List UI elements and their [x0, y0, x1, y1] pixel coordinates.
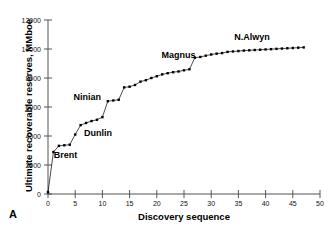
data-point-marker	[210, 53, 212, 55]
data-point-marker	[150, 77, 152, 79]
data-series	[47, 46, 305, 193]
data-point-marker	[166, 72, 168, 74]
annotation-label: Magnus	[162, 50, 196, 60]
data-point-marker	[118, 99, 120, 101]
data-point-marker	[292, 47, 294, 49]
data-point-marker	[69, 144, 71, 146]
x-tick-label: 25	[180, 200, 188, 207]
data-point-marker	[188, 68, 190, 70]
x-axis-title: Discovery sequence	[48, 211, 320, 222]
data-point-marker	[128, 86, 130, 88]
data-point-marker	[96, 119, 98, 121]
x-tick-label: 20	[153, 200, 161, 207]
data-point-marker	[90, 120, 92, 122]
tick-labels-group: 0200040006000800010000120000510152025303…	[22, 17, 324, 208]
data-point-marker	[232, 50, 234, 52]
data-point-marker	[221, 52, 223, 54]
data-point-marker	[145, 79, 147, 81]
x-tick-label: 40	[262, 200, 270, 207]
data-point-marker	[139, 80, 141, 82]
x-tick-label: 15	[126, 200, 134, 207]
data-point-marker	[199, 56, 201, 58]
data-point-marker	[107, 100, 109, 102]
annotation-label: Brent	[54, 150, 78, 160]
panel-label: A	[9, 208, 17, 220]
data-point-marker	[58, 145, 60, 147]
data-point-marker	[286, 47, 288, 49]
data-point-marker	[183, 69, 185, 71]
data-point-marker	[123, 86, 125, 88]
chart-plot-area: 0200040006000800010000120000510152025303…	[0, 0, 331, 235]
data-point-marker	[270, 48, 272, 50]
x-tick-label: 35	[235, 200, 243, 207]
data-point-marker	[85, 122, 87, 124]
data-point-marker	[177, 70, 179, 72]
data-point-marker	[205, 54, 207, 56]
data-point-marker	[302, 46, 304, 48]
data-point-marker	[237, 50, 239, 52]
data-point-marker	[275, 48, 277, 50]
annotation-label: Dunlin	[84, 128, 112, 138]
data-point-marker	[156, 75, 158, 77]
y-axis-title: Ultimate recoverable reserves, MMboe	[23, 6, 34, 206]
data-point-marker	[215, 52, 217, 54]
data-point-marker	[101, 116, 103, 118]
data-point-marker	[134, 84, 136, 86]
series-line	[48, 47, 304, 192]
x-tick-label: 0	[46, 200, 50, 207]
data-point-marker	[254, 49, 256, 51]
data-point-marker	[161, 73, 163, 75]
data-point-marker	[79, 124, 81, 126]
data-point-marker	[112, 99, 114, 101]
data-point-marker	[243, 49, 245, 51]
data-point-marker	[264, 48, 266, 50]
data-point-marker	[47, 191, 49, 193]
ticks-group	[44, 20, 320, 198]
data-point-marker	[297, 46, 299, 48]
x-tick-label: 50	[316, 200, 324, 207]
x-tick-label: 5	[73, 200, 77, 207]
data-point-marker	[63, 144, 65, 146]
data-point-marker	[281, 47, 283, 49]
data-point-marker	[226, 51, 228, 53]
x-tick-label: 45	[289, 200, 297, 207]
data-point-marker	[172, 71, 174, 73]
annotation-label: Ninian	[73, 92, 101, 102]
creaming-curve-figure: 0200040006000800010000120000510152025303…	[0, 0, 331, 235]
x-tick-label: 10	[99, 200, 107, 207]
data-point-marker	[248, 49, 250, 51]
y-tick-label: 0	[37, 191, 41, 198]
annotation-label: N.Alwyn	[234, 32, 270, 42]
data-point-marker	[259, 49, 261, 51]
data-point-marker	[74, 133, 76, 135]
axes-group	[48, 20, 320, 194]
x-tick-label: 30	[207, 200, 215, 207]
